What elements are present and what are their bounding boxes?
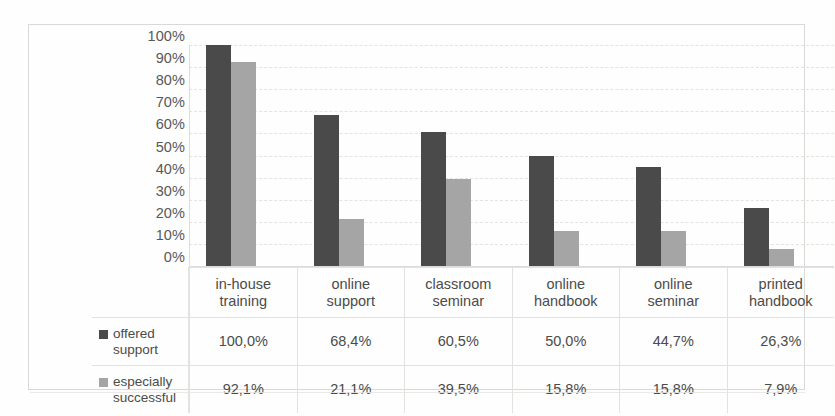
table-cell-value: 21,1% xyxy=(297,366,405,413)
bar-group xyxy=(513,45,621,266)
table-cell-value: 15,8% xyxy=(512,366,620,413)
legend-swatch-especially-successful xyxy=(99,378,108,387)
y-axis-tick-label: 20% xyxy=(119,206,185,221)
y-axis-tick-label: 60% xyxy=(119,117,185,132)
y-axis-labels: 100%90%80%70%60%50%40%30%20%10%0% xyxy=(119,37,185,259)
table-cell-value: 68,4% xyxy=(297,318,405,365)
table-cell-category: onlinesupport xyxy=(297,267,405,317)
y-axis-tick-label: 0% xyxy=(119,250,185,265)
table-cell-value: 100,0% xyxy=(189,318,297,365)
legend-item-offered-support: offered support xyxy=(92,318,189,365)
bar xyxy=(339,219,364,266)
table-cell-value: 92,1% xyxy=(189,366,297,413)
table-cell-value: 39,5% xyxy=(404,366,512,413)
scan-artifact-line xyxy=(30,392,805,393)
bar-group xyxy=(728,45,835,266)
bar-group xyxy=(405,45,513,266)
table-cell-value: 7,9% xyxy=(727,366,835,413)
bar xyxy=(231,62,256,266)
chart-frame: 100%90%80%70%60%50%40%30%20%10%0% in-hou… xyxy=(28,24,805,390)
bar xyxy=(529,156,554,267)
table-row-categories: in-housetrainingonlinesupportclassroomse… xyxy=(92,267,834,317)
table-cell-value: 15,8% xyxy=(619,366,727,413)
y-axis-tick-label: 100% xyxy=(119,29,185,44)
y-axis-tick-label: 40% xyxy=(119,162,185,177)
y-axis-tick-label: 90% xyxy=(119,51,185,66)
bar xyxy=(314,115,339,266)
y-axis-tick-label: 50% xyxy=(119,140,185,155)
bar xyxy=(206,45,231,266)
y-axis-tick-label: 70% xyxy=(119,95,185,110)
category-legend-spacer xyxy=(92,267,189,317)
y-axis-tick-label: 10% xyxy=(119,228,185,243)
table-cell-value: 60,5% xyxy=(404,318,512,365)
bar-group xyxy=(190,45,298,266)
bar xyxy=(554,231,579,266)
bar xyxy=(744,208,769,266)
table-cell-category: onlineseminar xyxy=(619,267,727,317)
table-row: especially successful 92,1%21,1%39,5%15,… xyxy=(92,365,834,413)
table-row: offered support 100,0%68,4%60,5%50,0%44,… xyxy=(92,317,834,365)
table-cell-category: printedhandbook xyxy=(727,267,835,317)
legend-swatch-offered-support xyxy=(99,330,108,339)
legend-label-offered-support: offered support xyxy=(113,326,188,358)
legend-item-especially-successful: especially successful xyxy=(92,366,189,413)
y-axis-tick-label: 80% xyxy=(119,73,185,88)
legend-label-especially-successful: especially successful xyxy=(113,374,188,406)
bar-group xyxy=(620,45,728,266)
table-cell-category: onlinehandbook xyxy=(512,267,620,317)
table-cell-value: 50,0% xyxy=(512,318,620,365)
bar-group xyxy=(298,45,406,266)
y-axis-tick-label: 30% xyxy=(119,184,185,199)
bar-groups xyxy=(190,45,834,266)
table-cell-value: 44,7% xyxy=(619,318,727,365)
bar xyxy=(421,132,446,266)
bar xyxy=(636,167,661,266)
bar xyxy=(446,179,471,266)
table-cell-category: in-housetraining xyxy=(189,267,297,317)
table-cell-category: classroomseminar xyxy=(404,267,512,317)
bar xyxy=(661,231,686,266)
bar xyxy=(769,249,794,266)
table-cell-value: 26,3% xyxy=(727,318,835,365)
